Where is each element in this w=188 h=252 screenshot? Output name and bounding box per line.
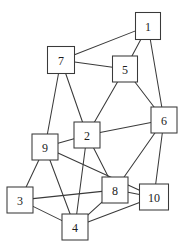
- graph-edge-2-6: [100, 123, 151, 133]
- graph-node-1[interactable]: 1: [136, 13, 161, 40]
- graph-edge-7-5: [75, 62, 113, 67]
- graph-node-label-10: 10: [148, 191, 160, 205]
- graph-edge-3-4: [33, 206, 62, 220]
- graph-node-9[interactable]: 9: [32, 134, 58, 160]
- graph-node-6[interactable]: 6: [151, 107, 177, 133]
- graph-node-8[interactable]: 8: [102, 177, 128, 203]
- graph-node-label-2: 2: [84, 129, 90, 143]
- graph-edge-9-3: [26, 160, 39, 187]
- graph-node-label-8: 8: [112, 184, 118, 198]
- graph-node-2[interactable]: 2: [74, 122, 100, 148]
- graph-edge-5-6: [135, 82, 154, 107]
- graph-edge-5-2: [94, 82, 117, 122]
- graph-edge-8-4: [88, 202, 102, 215]
- graph-edge-2-4: [77, 148, 86, 214]
- graph-edge-4-10: [88, 203, 140, 223]
- graph-node-label-3: 3: [17, 194, 23, 208]
- graph-edge-6-8: [124, 133, 155, 177]
- graph-canvas: 12345678910: [0, 0, 188, 252]
- graph-node-10[interactable]: 10: [140, 184, 169, 210]
- graph-edge-7-9: [47, 74, 58, 135]
- graph-edge-3-8: [33, 191, 102, 198]
- graph-node-3[interactable]: 3: [7, 187, 33, 213]
- graph-edge-9-4: [50, 160, 70, 214]
- graph-node-4[interactable]: 4: [62, 214, 88, 240]
- graph-edge-7-2: [66, 74, 83, 123]
- graph-node-label-4: 4: [72, 221, 78, 235]
- graph-edge-6-10: [156, 133, 163, 184]
- graph-edge-2-9: [58, 139, 74, 144]
- graph-edge-1-6: [150, 40, 161, 108]
- graph-node-label-6: 6: [161, 114, 167, 128]
- graph-diagram: 12345678910: [0, 0, 188, 252]
- graph-node-label-5: 5: [122, 63, 128, 77]
- graph-edge-8-10: [128, 192, 140, 194]
- graph-node-7[interactable]: 7: [48, 47, 75, 74]
- graph-node-label-1: 1: [145, 20, 151, 34]
- graph-edge-1-7: [75, 31, 136, 55]
- graph-node-5[interactable]: 5: [113, 56, 138, 82]
- graph-node-label-7: 7: [58, 54, 64, 68]
- graph-edge-1-5: [132, 40, 141, 57]
- graph-node-label-9: 9: [42, 141, 48, 155]
